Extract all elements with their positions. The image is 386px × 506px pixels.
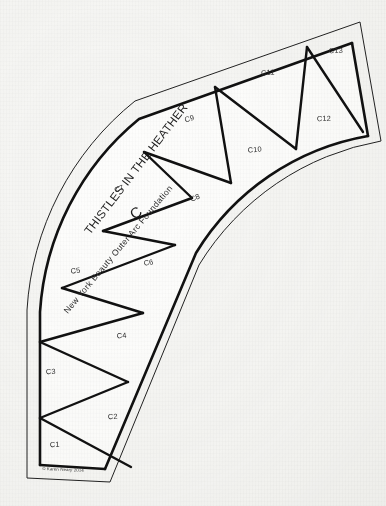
copyright-notice: © Karen Neary 2014 — [42, 466, 85, 473]
piece-label-c6: C6 — [143, 257, 154, 268]
foundation-pattern-canvas: C1 C2 C3 C4 C5 C6 C7 C8 C9 C10 C11 C12 C… — [0, 0, 386, 506]
piece-label-c3: C3 — [46, 367, 56, 377]
copyright-group: © Karen Neary 2014 — [42, 466, 85, 473]
piece-label-c1: C1 — [50, 440, 60, 450]
arc-band-body — [40, 43, 368, 469]
piece-label-c2: C2 — [108, 412, 118, 422]
piece-label-c10: C10 — [247, 144, 262, 154]
piece-label-c4: C4 — [116, 331, 127, 341]
piece-label-c12: C12 — [317, 114, 331, 123]
piece-label-c5: C5 — [70, 265, 81, 275]
piece-label-c13: C13 — [329, 46, 343, 55]
piece-label-c11: C11 — [261, 68, 275, 78]
